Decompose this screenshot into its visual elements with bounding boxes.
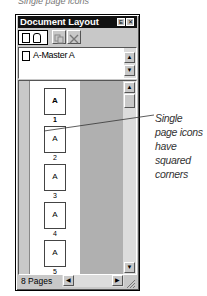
callout-text: Single page icons have squared corners	[155, 111, 207, 181]
